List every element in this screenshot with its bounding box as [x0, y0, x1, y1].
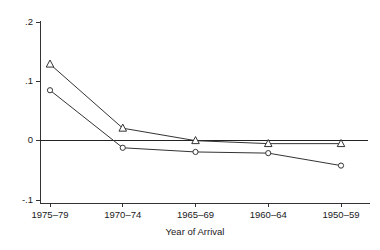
data-point-circle	[266, 151, 271, 156]
y-axis-tick-labels: .2.10-.1	[22, 16, 33, 205]
plot-area: .2.10-.1 1975–791970–741965–691960–64195…	[22, 16, 370, 238]
y-axis-tick-label: -.1	[22, 194, 33, 205]
x-axis-tick-labels: 1975–791970–741965–691960–641950–59	[32, 209, 360, 220]
x-axis-title: Year of Arrival	[166, 226, 225, 237]
x-axis-tick-label: 1970–74	[104, 209, 141, 220]
x-axis-tick-label: 1965–69	[177, 209, 214, 220]
x-axis-tick-label: 1975–79	[32, 209, 69, 220]
data-point-circle	[120, 145, 125, 150]
data-point-triangle	[46, 60, 54, 67]
y-axis-tick-label: .1	[25, 75, 33, 86]
axis-group	[36, 21, 370, 207]
data-point-triangle	[119, 124, 127, 131]
chart-figure: .2.10-.1 1975–791970–741965–691960–64195…	[0, 0, 380, 250]
y-axis-tick-label: 0	[28, 134, 33, 145]
data-point-circle	[338, 163, 343, 168]
data-series	[47, 88, 343, 169]
chart-canvas: .2.10-.1 1975–791970–741965–691960–64195…	[0, 0, 380, 250]
y-axis-tick-label: .2	[25, 16, 33, 27]
x-axis-tick-label: 1960–64	[250, 209, 287, 220]
x-axis-tick-label: 1950–59	[323, 209, 360, 220]
data-point-circle	[193, 149, 198, 154]
data-point-circle	[47, 88, 52, 93]
data-series	[46, 60, 345, 147]
series-group	[46, 60, 345, 168]
series-line	[50, 64, 341, 144]
